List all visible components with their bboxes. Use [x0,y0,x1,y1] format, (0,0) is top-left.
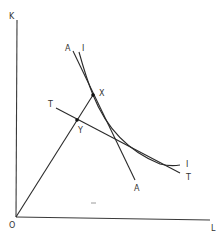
isoquant-diagram: K L O A I T X Y A I T [0,0,223,238]
a-bottom-label: A [134,184,140,193]
k-axis-label: K [9,12,15,21]
x-point-label: X [99,89,105,98]
origin-ray [16,95,93,217]
k-axis [16,20,17,217]
l-axis [16,217,210,220]
isoquant-curve [79,52,180,166]
point-y [75,118,79,122]
i-bottom-label: I [186,160,188,169]
l-axis-label: L [211,224,216,233]
a-top-label: A [65,44,71,53]
t-right-label: T [185,173,191,182]
y-point-label: Y [77,126,83,135]
line-aa [73,51,135,180]
origin-label: O [9,221,15,230]
t-left-label: T [47,100,53,109]
point-x [91,93,95,97]
i-top-label: I [82,44,84,53]
line-tt [56,108,180,173]
